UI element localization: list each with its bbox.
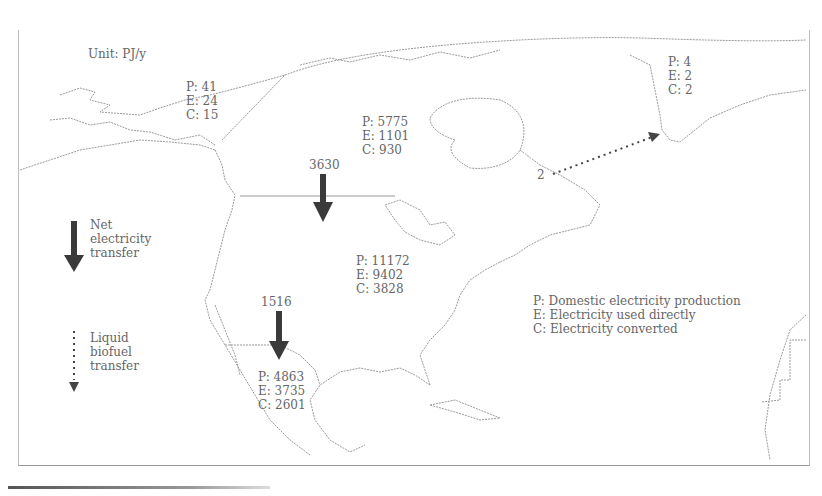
africa-coastline (765, 315, 806, 460)
canada-electricity-used: E: 1101 (362, 129, 409, 143)
gulf-coastline (310, 368, 430, 452)
region-greenland: P: 4 E: 2 C: 2 (668, 55, 693, 97)
region-canada: P: 5775 E: 1101 C: 930 (362, 115, 409, 157)
alaska-production: P: 41 (186, 80, 218, 94)
arctic-coastline (285, 38, 806, 75)
usa-electricity-converted: C: 3828 (356, 282, 410, 296)
bottom-rule (8, 486, 270, 489)
great-lakes (385, 200, 455, 245)
alaska-border (222, 75, 285, 140)
unit-label: Unit: PJ/y (88, 47, 146, 61)
mexico-electricity-converted: C: 2601 (258, 398, 306, 412)
key-used-directly: E: Electricity used directly (533, 308, 741, 322)
region-mexico: P: 4863 E: 3735 C: 2601 (258, 370, 306, 412)
transfer-canada-usa-value: 3630 (309, 158, 340, 172)
alaska-electricity-used: E: 24 (186, 94, 218, 108)
transfer-usa-mexico-value: 1516 (261, 295, 292, 309)
greenland-electricity-used: E: 2 (668, 69, 693, 83)
region-usa: P: 11172 E: 9402 C: 3828 (356, 254, 410, 296)
canada-production: P: 5775 (362, 115, 409, 129)
mexico-production: P: 4863 (258, 370, 306, 384)
key-converted: C: Electricity converted (533, 322, 741, 336)
transfer-biofuel-greenland-value: 2 (537, 168, 545, 182)
greenland-electricity-converted: C: 2 (668, 83, 693, 97)
key-production: P: Domestic electricity production (533, 294, 741, 308)
mexico-electricity-used: E: 3735 (258, 384, 306, 398)
hudson-bay (430, 98, 524, 168)
legend-liquid-biofuel: Liquid biofuel transfer (90, 331, 139, 373)
alaska-electricity-converted: C: 15 (186, 108, 218, 122)
alaska-coastline (60, 75, 285, 115)
usa-production: P: 11172 (356, 254, 410, 268)
canada-electricity-converted: C: 930 (362, 143, 409, 157)
legend-key: P: Domestic electricity production E: El… (533, 294, 741, 336)
east-coastline (420, 262, 500, 385)
legend-net-electricity: Net electricity transfer (90, 218, 151, 260)
usa-electricity-used: E: 9402 (356, 268, 410, 282)
region-alaska: P: 41 E: 24 C: 15 (186, 80, 218, 122)
greenland-production: P: 4 (668, 55, 693, 69)
greenland-coastline (630, 55, 806, 142)
